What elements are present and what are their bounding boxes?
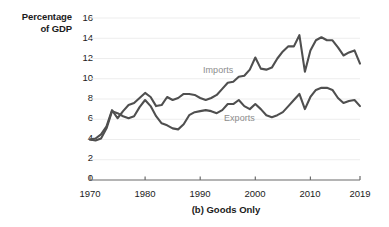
chart-figure: Percentage of GDP 16 14 12 10 8 6 4 2 0 …	[0, 0, 389, 227]
axis-lines	[90, 176, 360, 180]
chart-caption: (b) Goods Only	[90, 204, 362, 215]
series-label-exports: Exports	[224, 113, 255, 123]
plot-area	[0, 0, 389, 227]
series-line-imports	[90, 35, 360, 139]
series-label-imports: Imports	[203, 65, 233, 75]
